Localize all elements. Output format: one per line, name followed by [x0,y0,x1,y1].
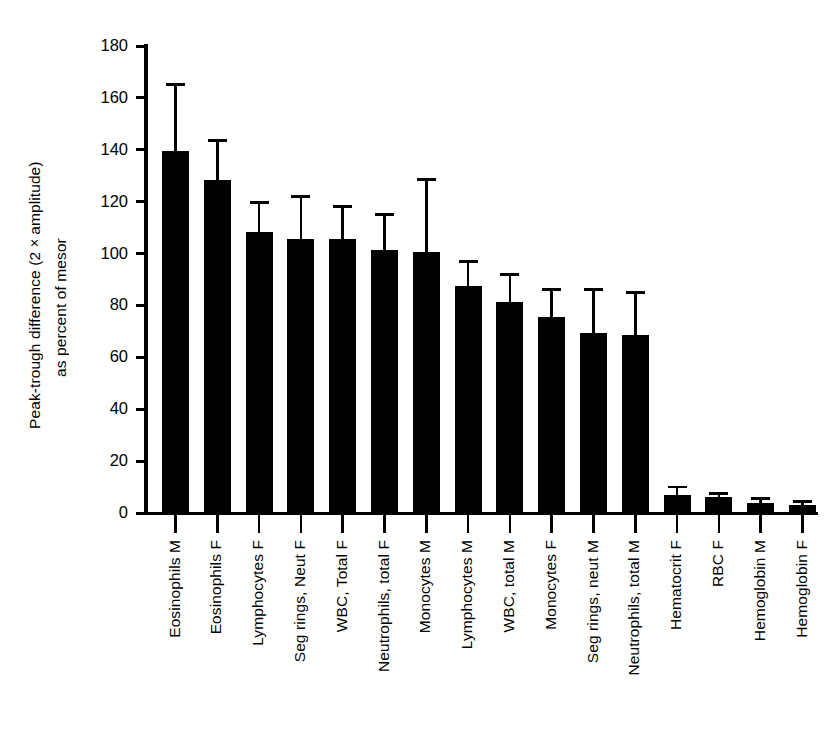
error-bar-stem [174,86,177,151]
error-bar-cap [333,205,352,208]
x-tick-mark [759,515,762,533]
x-tick-label: Monocytes M [417,540,433,633]
error-bar-stem [383,216,386,250]
x-tick-label: Hemoglobin M [752,540,768,641]
y-tick-mark [136,252,145,255]
error-bar-stem [718,495,721,498]
x-tick-label: Hematocrit F [668,540,684,630]
x-tick-mark [801,515,804,533]
error-bar-cap [626,291,645,294]
y-axis-title-line-2: as percent of mesor [52,158,70,458]
bar-group [204,46,231,513]
x-tick-mark [550,515,553,533]
y-tick-mark [136,200,145,203]
bar-group [664,46,691,513]
bar [496,302,523,513]
error-bar-cap [500,273,519,276]
error-bar-stem [300,198,303,240]
y-tick-mark [136,512,145,515]
bar [204,180,231,513]
error-bar-stem [550,291,553,317]
y-tick-mark [136,148,145,151]
x-tick-mark [300,515,303,533]
bar-group [747,46,774,513]
bar-group [329,46,356,513]
x-tick-label: Lymphocytes F [250,540,266,646]
bar-group [413,46,440,513]
error-bar-cap [375,213,394,216]
bar [705,497,732,513]
y-tick-label: 160 [84,89,128,106]
x-tick-label: Seg rings, Neut F [292,540,308,662]
bar [371,250,398,513]
x-tick-mark [341,515,344,533]
bar [246,232,273,513]
bar-group [538,46,565,513]
bar-chart: Peak-trough difference (2×amplitude) as … [0,0,834,733]
x-tick-label: Hemoglobin F [794,540,810,638]
bar-group [455,46,482,513]
x-tick-mark [383,515,386,533]
error-bar-stem [634,294,637,336]
y-tick-mark [136,356,145,359]
x-tick-mark [216,515,219,533]
y-tick-label: 100 [84,245,128,262]
error-bar-cap [793,500,812,503]
bar [664,495,691,513]
bar [162,151,189,513]
bar [287,239,314,513]
y-tick-mark [136,304,145,307]
x-tick-label: WBC, Total F [334,540,350,632]
y-tick-mark [136,45,145,48]
error-bar-stem [592,291,595,333]
error-bar-stem [509,276,512,302]
error-bar-stem [341,208,344,239]
error-bar-stem [801,503,804,506]
error-bar-cap [459,260,478,263]
y-tick-label: 20 [84,452,128,469]
error-bar-cap [584,288,603,291]
x-tick-mark [634,515,637,533]
x-tick-label: Lymphocytes M [459,540,475,649]
bar [622,335,649,513]
bar-group [246,46,273,513]
x-tick-label: RBC F [710,540,726,587]
error-bar-stem [425,181,428,252]
y-tick-label: 80 [84,296,128,313]
x-tick-label: Neutrophils, total M [626,540,642,676]
error-bar-cap [542,288,561,291]
x-tick-mark [676,515,679,533]
bar [455,286,482,513]
error-bar-cap [166,83,185,86]
bar [789,505,816,513]
error-bar-cap [417,178,436,181]
bar-group [287,46,314,513]
x-tick-label: Eosinophils F [208,540,224,634]
x-tick-label: Seg rings, neut M [585,540,601,663]
error-bar-cap [751,497,770,500]
bar-group [580,46,607,513]
bar-group [789,46,816,513]
error-bar-stem [467,263,470,286]
y-tick-label: 180 [84,37,128,54]
error-bar-cap [668,486,687,489]
y-tick-label: 0 [84,504,128,521]
x-tick-mark [509,515,512,533]
x-tick-label: Neutrophils, total F [376,540,392,672]
x-tick-mark [718,515,721,533]
bar-group [162,46,189,513]
y-tick-label: 120 [84,193,128,210]
y-tick-label: 40 [84,400,128,417]
error-bar-stem [258,204,261,231]
y-tick-label: 140 [84,141,128,158]
error-bar-cap [291,195,310,198]
bar-group [705,46,732,513]
x-tick-label: Monocytes F [543,540,559,630]
y-tick-label: 60 [84,348,128,365]
x-tick-mark [174,515,177,533]
bar [580,333,607,513]
bar [538,317,565,513]
y-tick-mark [136,460,145,463]
x-tick-label: WBC, total M [501,540,517,633]
error-bar-stem [216,142,219,180]
